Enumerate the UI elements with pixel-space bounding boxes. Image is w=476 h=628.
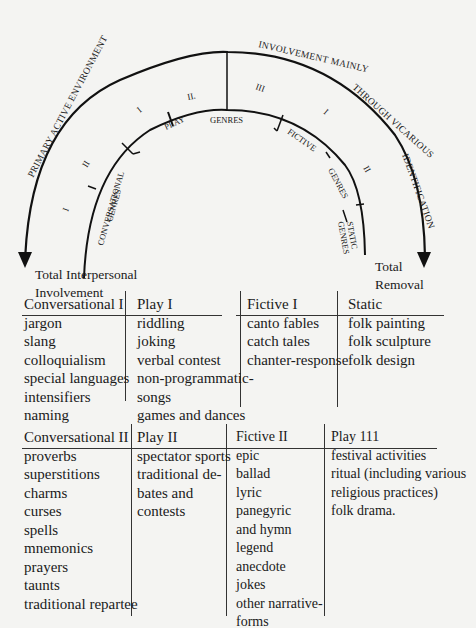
column-conversational-i: Conversational I jargon slang colloquial… — [24, 295, 129, 425]
column-header: Play 111 — [331, 428, 466, 447]
list-item: religious practices) — [331, 484, 466, 503]
right-endpoint-line-1: Total — [375, 258, 424, 276]
list-item: folk drama. — [331, 502, 466, 521]
column-play-ii: Play II spectator sports traditional de-… — [137, 428, 231, 521]
column-header: Conversational I — [24, 295, 129, 314]
genre-continuum-diagram: PRIMARY ACTIVE ENVIRONMENT INVOLVEMENT M… — [0, 0, 476, 290]
outer-left-label: PRIMARY ACTIVE ENVIRONMENT — [26, 34, 109, 179]
list-item: chanter-response — [247, 351, 348, 370]
column-header: Fictive II — [236, 428, 323, 447]
right-endpoint-line-2: Removal — [375, 276, 424, 294]
column-fictive-ii: Fictive II epic ballad lyric panegyric a… — [236, 428, 323, 628]
right-endpoint-label: Total Removal — [375, 258, 424, 294]
list-item: taunts — [24, 576, 138, 595]
list-item: catch tales — [247, 332, 348, 351]
column-header: Static — [348, 295, 431, 314]
list-item: jargon — [24, 314, 129, 333]
column-header: Play II — [137, 428, 231, 447]
list-item: ritual (including various — [331, 465, 466, 484]
list-item: non-programmatic- — [137, 369, 254, 388]
list-item: superstitions — [24, 465, 138, 484]
list-item: special languages — [24, 369, 129, 388]
column-header: Fictive I — [247, 295, 348, 314]
list-item: forms — [236, 613, 323, 628]
roman-play-iii: III — [254, 81, 266, 93]
list-item: slang — [24, 332, 129, 351]
roman-conv-i: I — [60, 206, 70, 212]
column-header: Play I — [137, 295, 254, 314]
list-item: mnemonics — [24, 539, 138, 558]
list-item: folk painting — [348, 314, 431, 333]
list-item: epic — [236, 447, 323, 466]
roman-fictive-ii: II — [361, 164, 373, 174]
fictive-genres-label: GENRES — [326, 166, 350, 200]
list-item: contests — [137, 502, 231, 521]
left-arrowhead-icon — [18, 252, 32, 268]
list-item: lyric — [236, 484, 323, 503]
list-item: bates and — [137, 484, 231, 503]
roman-play-ii: II. — [186, 90, 196, 101]
list-item: anecdote — [236, 558, 323, 577]
list-item: colloquialism — [24, 351, 129, 370]
list-item: naming — [24, 406, 129, 425]
roman-play-i: I — [135, 105, 144, 115]
play-label: PLAY — [163, 114, 187, 132]
list-item: songs — [137, 388, 254, 407]
list-item: prayers — [24, 558, 138, 577]
list-item: intensifiers — [24, 388, 129, 407]
list-item: festival activities — [331, 447, 466, 466]
outer-right-label-2: THROUGH VICARIOUS — [351, 82, 436, 160]
column-header: Conversational II — [24, 428, 138, 447]
list-item: legend — [236, 539, 323, 558]
list-item: and hymn — [236, 521, 323, 540]
table-bottom: Conversational II proverbs superstitions… — [0, 428, 476, 628]
roman-conv-ii: II — [80, 159, 92, 169]
list-item: charms — [24, 484, 138, 503]
list-item: traditional repartee — [24, 595, 138, 614]
column-play-iii: Play 111 festival activities ritual (inc… — [331, 428, 466, 521]
table-top: Conversational I jargon slang colloquial… — [0, 295, 476, 417]
list-item: folk design — [348, 351, 431, 370]
column-conversational-ii: Conversational II proverbs superstitions… — [24, 428, 138, 613]
outer-right-label-3: IDENTIFICATION — [400, 152, 436, 230]
list-item: other narrative- — [236, 595, 323, 614]
list-item: jokes — [236, 576, 323, 595]
inner-arc — [84, 110, 365, 278]
list-item: spells — [24, 521, 138, 540]
genres-center-label: GENRES — [210, 115, 243, 125]
list-item: ballad — [236, 465, 323, 484]
column-play-i: Play I riddling joking verbal contest no… — [137, 295, 254, 425]
list-item: curses — [24, 502, 138, 521]
list-item: riddling — [137, 314, 254, 333]
left-endpoint-line-1: Total Interpersonal — [35, 266, 137, 284]
list-item: panegyric — [236, 502, 323, 521]
list-item: folk sculpture — [348, 332, 431, 351]
fictive-label: FICTIVE — [286, 126, 318, 153]
list-item: games and dances — [137, 406, 254, 425]
list-item: spectator sports — [137, 447, 231, 466]
roman-fictive-i: I — [322, 107, 331, 117]
list-item: verbal contest — [137, 351, 254, 370]
list-item: traditional de- — [137, 465, 231, 484]
column-fictive-i: Fictive I canto fables catch tales chant… — [247, 295, 348, 369]
list-item: canto fables — [247, 314, 348, 333]
list-item: proverbs — [24, 447, 138, 466]
column-static: Static folk painting folk sculpture folk… — [348, 295, 431, 369]
list-item: joking — [137, 332, 254, 351]
